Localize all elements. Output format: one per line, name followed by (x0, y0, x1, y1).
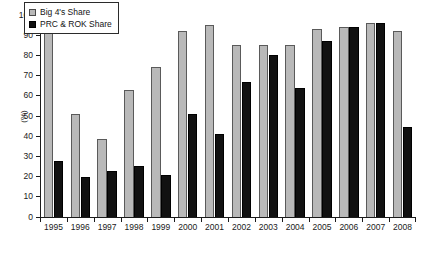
y-tick-label: 0 (28, 212, 33, 222)
bar (178, 31, 188, 217)
x-tick-label: 2006 (335, 222, 362, 232)
bar (205, 25, 215, 217)
legend-swatch-icon-big-4s-share (29, 9, 36, 16)
bar (124, 90, 134, 217)
bar (285, 45, 295, 217)
y-tick-label: 10 (24, 191, 33, 201)
bar (295, 88, 305, 217)
y-tick: 70 (36, 75, 40, 76)
y-tick: 50 (36, 116, 40, 117)
legend-label-big-4s-share: Big 4's Share (40, 7, 90, 17)
y-tick-label: 50 (24, 111, 33, 121)
bar (403, 127, 413, 217)
bar (54, 161, 64, 217)
legend-item-prc-rok-share: PRC & ROK Share (29, 18, 112, 30)
y-tick: 40 (36, 136, 40, 137)
y-tick-label: 70 (24, 70, 33, 80)
legend-label-prc-rok-share: PRC & ROK Share (40, 19, 112, 29)
bar (134, 166, 144, 218)
y-tick-label: 80 (24, 50, 33, 60)
y-tick-label: 60 (24, 90, 33, 100)
y-tick: 80 (36, 55, 40, 56)
bar (71, 114, 81, 217)
bar (269, 55, 279, 217)
y-tick: 90 (36, 35, 40, 36)
bar (97, 139, 107, 217)
x-tick-label: 1995 (40, 222, 67, 232)
chart-legend: Big 4's Share PRC & ROK Share (24, 2, 119, 34)
bar (151, 67, 161, 217)
bar (107, 171, 117, 217)
y-tick: 30 (36, 156, 40, 157)
bar (44, 21, 54, 217)
bar (161, 175, 171, 217)
bar (232, 45, 242, 217)
x-tick-label: 2008 (389, 222, 416, 232)
bar (366, 23, 376, 217)
x-tick-label: 2001 (201, 222, 228, 232)
legend-item-big-4s-share: Big 4's Share (29, 6, 112, 18)
y-tick: 60 (36, 95, 40, 96)
x-tick-label: 2000 (174, 222, 201, 232)
x-tick-label: 2003 (255, 222, 282, 232)
bar-chart: (%) 0102030405060708090100 1995199619971… (0, 0, 424, 257)
bar (339, 27, 349, 217)
bar (349, 27, 359, 217)
x-tick-label: 2007 (362, 222, 389, 232)
x-tick-label: 1996 (67, 222, 94, 232)
x-tick-label: 2002 (228, 222, 255, 232)
x-tick-label: 1998 (121, 222, 148, 232)
bar (376, 23, 386, 217)
bar (215, 134, 225, 217)
x-tick-label: 1999 (147, 222, 174, 232)
bar (81, 177, 91, 217)
y-tick: 20 (36, 176, 40, 177)
bar (312, 29, 322, 217)
y-tick-label: 30 (24, 151, 33, 161)
y-tick: 10 (36, 196, 40, 197)
bar (322, 41, 332, 217)
bar (242, 82, 252, 217)
y-tick-label: 40 (24, 131, 33, 141)
x-tick-label: 2005 (309, 222, 336, 232)
bar (259, 45, 269, 217)
legend-swatch-icon-prc-rok-share (29, 21, 36, 28)
plot-area: 0102030405060708090100 19951996199719981… (40, 15, 416, 218)
y-axis-line (40, 15, 41, 218)
bar (188, 114, 198, 217)
bar (393, 31, 403, 217)
x-tick-label: 1997 (94, 222, 121, 232)
y-tick-label: 20 (24, 171, 33, 181)
x-tick-label: 2004 (282, 222, 309, 232)
